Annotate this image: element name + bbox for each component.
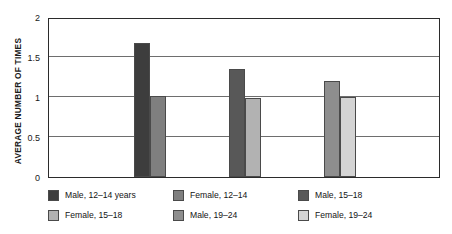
legend-swatch-icon: [173, 190, 184, 201]
bar-chart-figure: AVERAGE NUMBER OF TIMES 21.510.50 Male, …: [0, 0, 452, 234]
legend-item[interactable]: Male, 15–18: [298, 186, 423, 204]
legend-row: Female, 15–18Male, 19–24Female, 19–24: [48, 206, 452, 224]
legend-swatch-icon: [48, 190, 59, 201]
plot-area: [48, 18, 440, 178]
legend-label: Female, 12–14: [190, 190, 247, 200]
bar: [340, 97, 356, 177]
legend-item[interactable]: Female, 15–18: [48, 206, 173, 224]
bar: [134, 43, 150, 177]
y-axis-tick-label: 0: [35, 174, 40, 183]
y-axis-tick-label: 2: [35, 14, 40, 23]
legend-item[interactable]: Male, 12–14 years: [48, 186, 173, 204]
legend-row: Male, 12–14 yearsFemale, 12–14Male, 15–1…: [48, 186, 452, 204]
bar: [229, 69, 245, 177]
legend-item[interactable]: Female, 12–14: [173, 186, 298, 204]
y-axis-tick-label: 0.5: [27, 134, 40, 143]
chart-legend: Male, 12–14 yearsFemale, 12–14Male, 15–1…: [48, 186, 452, 228]
legend-swatch-icon: [298, 210, 309, 221]
legend-swatch-icon: [298, 190, 309, 201]
gridline: [49, 56, 439, 57]
y-axis-tick-labels: 21.510.50: [0, 18, 46, 178]
legend-swatch-icon: [173, 210, 184, 221]
bar: [150, 96, 166, 177]
bar: [245, 98, 261, 177]
y-axis-tick-label: 1: [35, 94, 40, 103]
y-axis-tick-label: 1.5: [27, 54, 40, 63]
legend-swatch-icon: [48, 210, 59, 221]
legend-item[interactable]: Female, 19–24: [298, 206, 423, 224]
legend-label: Male, 15–18: [315, 190, 362, 200]
legend-item[interactable]: Male, 19–24: [173, 206, 298, 224]
legend-label: Male, 12–14 years: [65, 190, 136, 200]
bar: [324, 81, 340, 177]
legend-label: Female, 19–24: [315, 210, 372, 220]
legend-label: Male, 19–24: [190, 210, 237, 220]
legend-label: Female, 15–18: [65, 210, 122, 220]
